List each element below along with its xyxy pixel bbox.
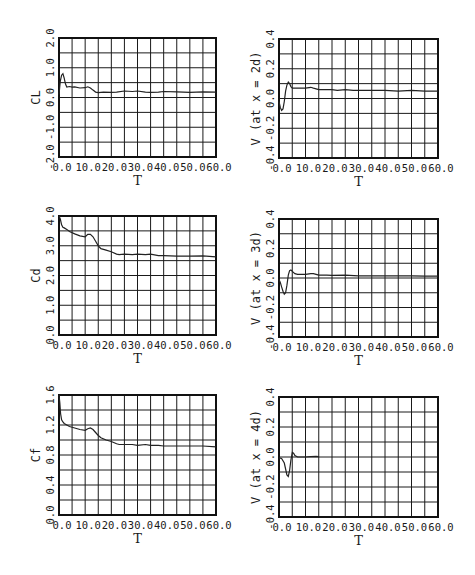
x-tick-label: 60.0 — [428, 162, 453, 174]
x-tick-label: 40.0 — [154, 339, 179, 351]
plot-v-4d: 0.010.020.030.040.050.060.0T-0.4-0.20.00… — [249, 388, 454, 548]
x-tick-label: 50.0 — [180, 519, 205, 531]
y-tick-label: 1.6 — [44, 386, 56, 405]
y-tick-label: 0.2 — [264, 418, 276, 437]
y-tick-label: 0.4 — [44, 476, 56, 495]
plot-v-3d: 0.010.020.030.040.050.060.0T-0.4-0.20.00… — [249, 210, 454, 368]
figure-canvas: 0.010.020.030.040.050.060.0T-2.0-1.00.01… — [0, 0, 475, 575]
plot-cd: 0.010.020.030.040.050.060.0T0.01.02.03.0… — [29, 207, 232, 366]
y-tick-label: 0.2 — [264, 59, 276, 78]
x-tick-labels: 0.010.020.030.040.050.060.0 — [273, 162, 454, 174]
y-tick-label: -0.4 — [264, 324, 276, 349]
x-tick-labels: 0.010.020.030.040.050.060.0 — [273, 341, 454, 353]
grid-lines — [59, 395, 216, 515]
plot-v-2d: 0.010.020.030.040.050.060.0T-0.4-0.20.00… — [249, 30, 454, 189]
y-tick-label: -0.4 — [264, 145, 276, 170]
y-axis-label: V (at x = 2d) — [249, 52, 263, 146]
x-tick-label: 20.0 — [322, 341, 347, 353]
y-tick-label: 4.0 — [44, 207, 56, 226]
x-tick-label: 50.0 — [402, 162, 427, 174]
x-tick-label: 50.0 — [180, 161, 205, 173]
y-tick-label: 2.0 — [44, 29, 56, 48]
y-tick-label: -0.2 — [264, 116, 276, 141]
x-tick-label: 10.0 — [296, 162, 321, 174]
x-tick-label: 20.0 — [102, 519, 127, 531]
x-tick-label: 40.0 — [154, 161, 179, 173]
y-tick-label: 0.0 — [264, 448, 276, 467]
y-tick-label: 0.4 — [264, 210, 276, 229]
y-tick-label: 0.0 — [44, 88, 56, 107]
x-tick-labels: 0.010.020.030.040.050.060.0 — [53, 519, 232, 531]
x-tick-label: 60.0 — [206, 519, 231, 531]
y-axis-label: Cd — [29, 268, 43, 282]
y-tick-label: 1.2 — [44, 416, 56, 435]
y-tick-labels: -0.4-0.20.00.20.4 — [264, 210, 276, 350]
y-tick-label: 2.0 — [44, 266, 56, 285]
y-tick-label: 0.2 — [264, 239, 276, 258]
x-tick-label: 60.0 — [206, 161, 231, 173]
x-tick-label: 10.0 — [296, 341, 321, 353]
data-curve — [279, 453, 319, 477]
y-tick-labels: 0.01.02.03.04.0 — [44, 207, 56, 345]
y-tick-label: 0.0 — [44, 506, 56, 525]
grid-lines — [59, 216, 216, 335]
grid-lines — [279, 39, 438, 158]
x-tick-label: 40.0 — [375, 341, 400, 353]
y-tick-label: -0.2 — [264, 474, 276, 499]
y-tick-labels: 0.00.40.81.21.6 — [44, 386, 56, 525]
plot-cl: 0.010.020.030.040.050.060.0T-2.0-1.00.01… — [29, 29, 232, 188]
x-tick-label: 40.0 — [154, 519, 179, 531]
y-axis-label: V (at x = 3d) — [249, 231, 263, 325]
y-tick-label: -2.0 — [44, 144, 56, 169]
y-tick-labels: -0.4-0.20.00.20.4 — [264, 30, 276, 171]
y-tick-label: -0.2 — [264, 295, 276, 320]
grid-lines — [59, 38, 216, 157]
x-axis-label: T — [133, 173, 142, 188]
y-tick-label: -0.4 — [264, 504, 276, 529]
y-axis-label: CL — [29, 90, 43, 104]
x-axis-label: T — [133, 351, 142, 366]
x-axis-label: T — [354, 174, 363, 189]
x-tick-label: 30.0 — [128, 339, 153, 351]
x-tick-label: 20.0 — [322, 521, 347, 533]
x-axis-label: T — [354, 533, 363, 548]
x-tick-label: 40.0 — [375, 521, 400, 533]
x-tick-label: 20.0 — [322, 162, 347, 174]
y-tick-label: 1.0 — [44, 296, 56, 315]
y-tick-label: 0.4 — [264, 30, 276, 49]
x-tick-label: 50.0 — [402, 521, 427, 533]
grid-lines — [279, 219, 438, 337]
y-tick-labels: -2.0-1.00.01.02.0 — [44, 29, 56, 170]
x-tick-label: 50.0 — [402, 341, 427, 353]
x-axis-label: T — [133, 531, 142, 546]
y-tick-label: 0.8 — [44, 446, 56, 465]
x-tick-labels: 0.010.020.030.040.050.060.0 — [53, 161, 232, 173]
x-tick-label: 10.0 — [296, 521, 321, 533]
x-tick-label: 60.0 — [428, 341, 453, 353]
x-tick-label: 30.0 — [128, 161, 153, 173]
y-axis-label: V (at x = 4d) — [249, 410, 263, 504]
x-tick-label: 30.0 — [349, 162, 374, 174]
y-tick-label: 0.4 — [264, 388, 276, 407]
y-axis-label: Cf — [29, 448, 43, 462]
x-tick-label: 20.0 — [102, 339, 127, 351]
x-tick-label: 10.0 — [76, 161, 101, 173]
y-tick-label: 0.0 — [264, 269, 276, 288]
x-axis-label: T — [354, 353, 363, 368]
x-tick-labels: 0.010.020.030.040.050.060.0 — [53, 339, 232, 351]
y-tick-label: 0.0 — [44, 326, 56, 345]
y-tick-labels: -0.4-0.20.00.20.4 — [264, 388, 276, 530]
x-tick-label: 60.0 — [428, 521, 453, 533]
x-tick-label: 30.0 — [349, 521, 374, 533]
x-tick-label: 10.0 — [76, 519, 101, 531]
y-tick-label: 1.0 — [44, 58, 56, 77]
x-tick-label: 20.0 — [102, 161, 127, 173]
y-tick-label: -1.0 — [44, 115, 56, 140]
x-tick-labels: 0.010.020.030.040.050.060.0 — [273, 521, 454, 533]
x-tick-label: 30.0 — [349, 341, 374, 353]
x-tick-label: 60.0 — [206, 339, 231, 351]
plot-cf: 0.010.020.030.040.050.060.0T0.00.40.81.2… — [29, 386, 232, 546]
y-tick-label: 0.0 — [264, 89, 276, 108]
x-tick-label: 10.0 — [76, 339, 101, 351]
x-tick-label: 30.0 — [128, 519, 153, 531]
